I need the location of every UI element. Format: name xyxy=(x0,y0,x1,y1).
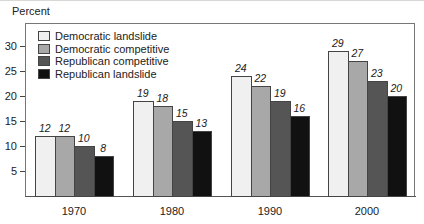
bar-value-label: 19 xyxy=(268,88,292,99)
legend-swatch-icon xyxy=(38,56,50,66)
y-tick xyxy=(20,146,25,147)
legend-swatch-icon xyxy=(38,31,50,41)
bar xyxy=(251,86,272,197)
bar-value-label: 8 xyxy=(91,143,115,154)
bar xyxy=(231,76,252,197)
legend-label: Republican landslide xyxy=(55,68,157,80)
bar xyxy=(94,156,115,197)
bar-value-label: 20 xyxy=(384,83,408,94)
bar xyxy=(133,101,154,197)
y-tick-label: 10 xyxy=(0,141,17,152)
bar xyxy=(290,116,311,197)
bar xyxy=(367,81,388,197)
bar xyxy=(192,131,213,197)
legend-swatch-icon xyxy=(38,69,50,79)
x-tick-label: 1990 xyxy=(240,205,300,217)
bar-value-label: 16 xyxy=(287,103,311,114)
bar xyxy=(153,106,174,197)
legend-label: Democratic competitive xyxy=(55,43,169,55)
y-tick xyxy=(20,121,25,122)
y-tick-label: 30 xyxy=(0,41,17,52)
legend-label: Democratic landslide xyxy=(55,30,157,42)
legend-swatch-icon xyxy=(38,44,50,54)
y-axis-label: Percent xyxy=(12,5,50,17)
legend-label: Republican competitive xyxy=(55,55,169,67)
bar xyxy=(35,136,56,197)
bar-value-label: 18 xyxy=(150,93,174,104)
bar-value-label: 22 xyxy=(248,73,272,84)
bar-value-label: 13 xyxy=(189,118,213,129)
y-tick-label: 20 xyxy=(0,91,17,102)
bar xyxy=(387,96,408,197)
bar-value-label: 27 xyxy=(345,48,369,59)
y-tick-label: 15 xyxy=(0,116,17,127)
bar-value-label: 23 xyxy=(365,68,389,79)
y-tick xyxy=(20,171,25,172)
top-divider xyxy=(0,0,424,1)
bar xyxy=(328,51,349,197)
x-tick-label: 2000 xyxy=(337,205,397,217)
bar xyxy=(55,136,76,197)
y-tick xyxy=(20,46,25,47)
bar xyxy=(270,101,291,197)
y-tick-label: 5 xyxy=(0,166,17,177)
y-tick xyxy=(20,96,25,97)
x-tick-label: 1970 xyxy=(44,205,104,217)
bar xyxy=(172,121,193,197)
y-tick xyxy=(20,71,25,72)
y-tick-label: 25 xyxy=(0,66,17,77)
x-tick-label: 1980 xyxy=(142,205,202,217)
bar xyxy=(348,61,369,197)
